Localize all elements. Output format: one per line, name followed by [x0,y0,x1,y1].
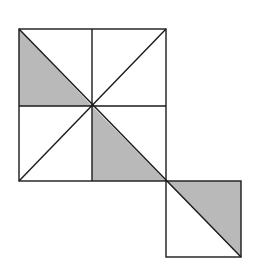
shaded-triangle-center-bottom [92,106,166,181]
outline-lines [19,29,241,257]
geometry-diagram [0,0,266,274]
main-diagonal [19,29,241,257]
